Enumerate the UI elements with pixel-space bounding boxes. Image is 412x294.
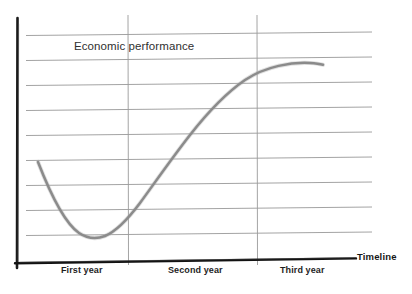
divider-year-2: [257, 15, 258, 265]
gridline-h-8: [26, 207, 372, 211]
x-axis-title-timeline: Timeline: [357, 252, 397, 262]
economic-performance-chart: Economic performance First year Second y…: [0, 0, 412, 294]
vertical-dividers: [128, 15, 258, 265]
gridline-h-1: [26, 32, 372, 36]
divider-year-1: [128, 15, 129, 265]
y-axis-line: [17, 18, 18, 268]
chart-plot-area: [0, 0, 412, 294]
x-axis: [15, 258, 356, 263]
gridline-h-3: [26, 82, 372, 86]
gridline-h-4: [26, 107, 372, 111]
gridline-h-5: [26, 132, 372, 136]
chart-title: Economic performance: [74, 41, 194, 53]
data-curve-shadow: [38, 63, 323, 238]
y-axis: [17, 18, 19, 268]
x-axis-line: [15, 258, 356, 263]
gridline-h-2: [26, 57, 372, 61]
x-tick-label-first-year: First year: [61, 266, 103, 275]
x-tick-label-third-year: Third year: [280, 266, 325, 275]
x-tick-label-second-year: Second year: [168, 266, 223, 275]
gridline-h-6: [26, 157, 372, 161]
gridline-h-7: [26, 182, 372, 186]
